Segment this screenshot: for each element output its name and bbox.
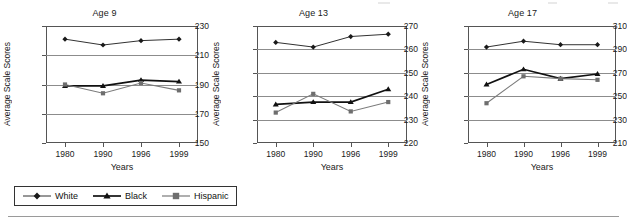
series-layer	[0, 0, 209, 185]
series-layer	[209, 0, 418, 185]
square-marker-icon	[558, 77, 562, 81]
series-black	[62, 77, 182, 88]
square-marker-icon	[173, 193, 179, 199]
series-line	[487, 41, 598, 47]
square-marker-icon	[484, 101, 488, 105]
diamond-marker-icon	[62, 37, 67, 42]
chart-figure: Age 9 Average Scale Scores Years 1501701…	[0, 0, 627, 223]
legend-swatch	[92, 190, 122, 202]
chart-panel-age-9: Age 9 Average Scale Scores Years 1501701…	[0, 0, 209, 185]
chart-panel-age-17: Age 17 Average Scale Scores Years 210230…	[418, 0, 627, 185]
legend-item-white[interactable]: White	[22, 190, 78, 202]
square-marker-icon	[274, 110, 278, 114]
diamond-marker-icon	[558, 42, 563, 47]
series-black	[484, 66, 601, 86]
square-marker-icon	[177, 88, 181, 92]
series-white	[484, 39, 600, 50]
legend-swatch	[22, 190, 52, 202]
diamond-marker-icon	[348, 34, 353, 39]
series-line	[487, 69, 598, 84]
series-line	[487, 76, 598, 103]
diamond-marker-icon	[484, 44, 489, 49]
square-marker-icon	[521, 74, 525, 78]
series-line	[65, 83, 179, 93]
legend-label: White	[54, 191, 78, 201]
series-layer	[418, 0, 627, 185]
chart-panels: Age 9 Average Scale Scores Years 1501701…	[0, 0, 627, 185]
chart-panel-age-13: Age 13 Average Scale Scores Years 220230…	[209, 0, 418, 185]
triangle-marker-icon	[385, 86, 391, 91]
footer-divider	[8, 216, 619, 217]
series-white	[273, 32, 391, 50]
diamond-marker-icon	[595, 42, 600, 47]
diamond-marker-icon	[273, 40, 278, 45]
legend-label: Hispanic	[193, 191, 229, 201]
diamond-marker-icon	[176, 37, 181, 42]
square-marker-icon	[386, 100, 390, 104]
diamond-marker-icon	[386, 32, 391, 37]
diamond-marker-icon	[521, 39, 526, 44]
square-marker-icon	[63, 82, 67, 86]
series-line	[65, 39, 179, 45]
square-marker-icon	[101, 91, 105, 95]
diamond-marker-icon	[34, 193, 41, 200]
series-white	[62, 37, 181, 48]
series-black	[273, 86, 392, 106]
legend-item-black[interactable]: Black	[92, 190, 147, 202]
chart-legend: WhiteBlackHispanic	[14, 186, 237, 206]
series-line	[276, 34, 389, 47]
diamond-marker-icon	[100, 42, 105, 47]
triangle-marker-icon	[521, 66, 527, 71]
legend-label: Black	[124, 191, 147, 201]
diamond-marker-icon	[138, 38, 143, 43]
square-marker-icon	[311, 92, 315, 96]
legend-item-hispanic[interactable]: Hispanic	[161, 190, 229, 202]
square-marker-icon	[349, 109, 353, 113]
legend-swatch	[161, 190, 191, 202]
diamond-marker-icon	[311, 44, 316, 49]
square-marker-icon	[139, 81, 143, 85]
square-marker-icon	[595, 78, 599, 82]
series-line	[65, 80, 179, 86]
